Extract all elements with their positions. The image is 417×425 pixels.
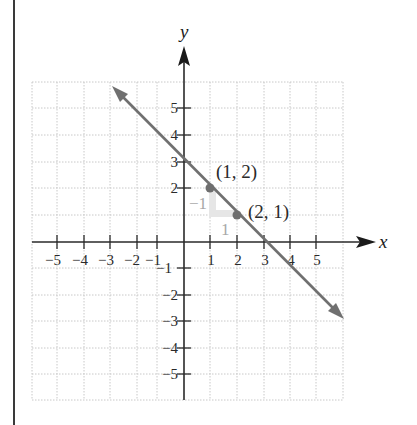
y-tick-label: −1 [156, 260, 172, 276]
line-series [112, 86, 344, 319]
y-tick-label: 5 [171, 100, 179, 116]
grid [32, 82, 343, 400]
x-tick-label: −4 [72, 252, 88, 268]
y-axis-label: y [178, 21, 189, 42]
x-tick-label: −3 [98, 252, 114, 268]
x-axis-label: x [378, 231, 388, 252]
y-tick-label: −2 [162, 287, 178, 303]
point-label-1-2: (1, 2) [216, 161, 257, 183]
x-tick-label: −5 [45, 252, 61, 268]
run-label: 1 [221, 220, 230, 239]
rise-label: −1 [189, 194, 207, 213]
x-tick-label: 2 [234, 252, 242, 268]
y-tick-label: 4 [171, 127, 179, 143]
x-tick-label: 1 [207, 252, 215, 268]
x-tick-label: 5 [313, 252, 321, 268]
coordinate-plane: −5 −4 −3 −2 −1 1 2 3 4 5 5 4 3 2 −1 −2 −… [0, 0, 417, 425]
y-tick-label: 3 [171, 154, 179, 170]
slope-triangle [209, 188, 237, 217]
point-2-1 [233, 211, 242, 220]
x-tick-label: −2 [124, 252, 140, 268]
y-tick-label: 2 [171, 180, 179, 196]
y-tick-label: −3 [162, 313, 178, 329]
x-tick-label: 3 [261, 252, 269, 268]
point-label-2-1: (2, 1) [248, 201, 289, 223]
y-tick-label: −4 [162, 340, 178, 356]
axes [32, 62, 362, 400]
y-tick-label: −5 [162, 366, 178, 382]
point-1-2 [206, 184, 215, 193]
